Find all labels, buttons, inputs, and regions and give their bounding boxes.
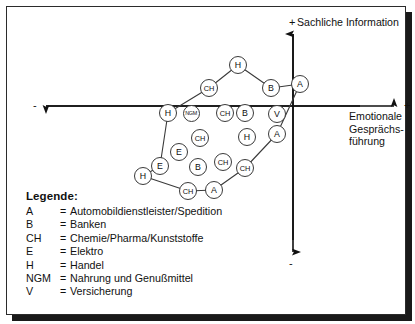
legend-item-key: CH <box>26 232 60 245</box>
marker-b-14: B <box>189 158 207 176</box>
axis-vertical-label: Sachliche Information <box>297 16 399 29</box>
legend-item-value: Banken <box>70 218 296 231</box>
legend-item-value: Handel <box>70 259 296 272</box>
legend-item-v: V=Versicherung <box>26 285 296 298</box>
legend-item-equals: = <box>60 285 70 298</box>
legend-item-equals: = <box>60 205 70 218</box>
legend-item-value: Versicherung <box>70 285 296 298</box>
legend-rows: A=Automobildienstleister/SpeditionB=Bank… <box>26 205 296 299</box>
marker-a-11: A <box>268 125 286 143</box>
legend-item-a: A=Automobildienstleister/Spedition <box>26 205 296 218</box>
marker-h-4: H <box>159 104 177 122</box>
axis-horizontal-label: EmotionaleGesprächs-führung <box>349 110 413 148</box>
figure-container: HCHBAHNGMCHBVCHHAEEBCHCHHCHA + Sachliche… <box>0 0 415 324</box>
marker-ch-1: CH <box>200 79 218 97</box>
legend-item-value: Chemie/Pharma/Kunststoffe <box>70 232 296 245</box>
marker-h-10: H <box>238 128 256 146</box>
legend-item-b: B=Banken <box>26 218 296 231</box>
legend-item-h: H=Handel <box>26 259 296 272</box>
legend-item-key: NGM <box>26 272 60 285</box>
legend-item-ch: CH=Chemie/Pharma/Kunststoffe <box>26 232 296 245</box>
marker-h-17: H <box>134 167 152 185</box>
axis-horizontal-label-line-1: Gesprächs- <box>349 123 413 136</box>
marker-ch-15: CH <box>214 153 232 171</box>
legend-item-equals: = <box>60 245 70 258</box>
marker-a-3: A <box>291 75 309 93</box>
legend-item-key: H <box>26 259 60 272</box>
axis-vertical-plus-sign: + <box>289 17 295 28</box>
legend-item-key: E <box>26 245 60 258</box>
legend-item-key: V <box>26 285 60 298</box>
axis-horizontal-label-line-2: führung <box>349 135 413 148</box>
marker-b-2: B <box>262 79 280 97</box>
axis-horizontal-label-line-0: Emotionale <box>349 110 413 123</box>
legend-item-equals: = <box>60 232 70 245</box>
legend-item-value: Nahrung und Genußmittel <box>70 272 296 285</box>
marker-e-13: E <box>151 157 169 175</box>
marker-v-8: V <box>268 105 286 123</box>
legend-item-equals: = <box>60 259 70 272</box>
legend-item-e: E=Elektro <box>26 245 296 258</box>
marker-e-12: E <box>170 143 188 161</box>
legend-item-ngm: NGM=Nahrung und Genußmittel <box>26 272 296 285</box>
legend: Legende: A=Automobildienstleister/Spedit… <box>26 190 296 299</box>
marker-h-0: H <box>229 56 247 74</box>
marker-ngm-5: NGM <box>183 105 200 122</box>
legend-item-key: B <box>26 218 60 231</box>
legend-item-equals: = <box>60 218 70 231</box>
marker-ch-16: CH <box>236 159 254 177</box>
legend-title: Legende: <box>26 190 296 203</box>
marker-ch-9: CH <box>191 129 209 147</box>
legend-item-equals: = <box>60 272 70 285</box>
axis-horizontal-minus-sign: - <box>33 100 37 111</box>
legend-item-key: A <box>26 205 60 218</box>
legend-item-value: Elektro <box>70 245 296 258</box>
marker-b-7: B <box>236 104 254 122</box>
legend-item-value: Automobildienstleister/Spedition <box>70 205 296 218</box>
marker-ch-6: CH <box>216 104 234 122</box>
